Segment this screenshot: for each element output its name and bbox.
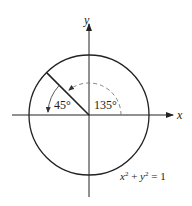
angle-label-45: 45°	[54, 98, 71, 112]
x-axis-label: x	[176, 108, 183, 122]
angle-label-135: 135°	[94, 98, 117, 112]
circle-equation: x2 + y2 = 1	[119, 170, 166, 182]
y-axis-label: y	[83, 13, 90, 27]
unit-circle-diagram: y x 45° 135° x2 + y2 = 1	[0, 0, 192, 206]
